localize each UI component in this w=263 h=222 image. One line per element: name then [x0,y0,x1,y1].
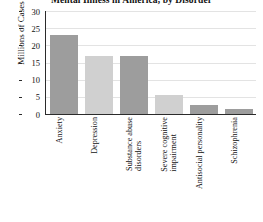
bar [155,95,183,114]
x-axis-label-line: Antisocial personality [196,117,205,189]
y-tick-mark [19,45,22,46]
x-axis-label: Antisocial personality [196,117,205,189]
x-axis-label-line: impairment [170,117,179,172]
y-tick-mark [19,80,22,81]
x-axis-label-line: Anxiety [56,117,65,143]
y-tick-mark [19,63,22,64]
bar-series [46,11,256,114]
chart-title: Mental Illness in America, by Disorder [0,0,263,5]
chart-container: Mental Illness in America, by Disorder M… [0,0,263,222]
x-axis-label: Anxiety [56,117,65,143]
x-axis-label: Substance abusedisorders [126,117,143,171]
y-tick-label: 25 [24,25,40,34]
x-axis-label-line: Schizophrenia [231,117,240,164]
y-axis-ticks: 051015202530 [22,11,40,115]
y-tick-mark [19,114,22,115]
x-axis-labels: AnxietyDepressionSubstance abusedisorder… [45,117,256,222]
y-tick-label: 10 [24,76,40,85]
y-tick-mark [19,97,22,98]
x-axis-line [45,114,256,115]
y-tick-label: 15 [24,59,40,68]
bar [85,56,113,114]
bar [120,56,148,114]
y-tick-mark [19,28,22,29]
x-axis-label: Severe cognitiveimpairment [161,117,178,172]
y-tick-label: 0 [24,111,40,120]
y-tick-label: 30 [24,8,40,17]
bar [190,105,218,114]
y-tick-label: 20 [24,42,40,51]
plot-area [45,11,256,115]
y-tick-mark [19,11,22,12]
bar [225,109,253,114]
y-tick-label: 5 [24,93,40,102]
x-axis-label-line: disorders [135,117,144,171]
x-axis-label: Schizophrenia [231,117,240,164]
x-axis-label: Depression [91,117,100,154]
x-axis-label-line: Depression [91,117,100,154]
bar [50,35,78,114]
